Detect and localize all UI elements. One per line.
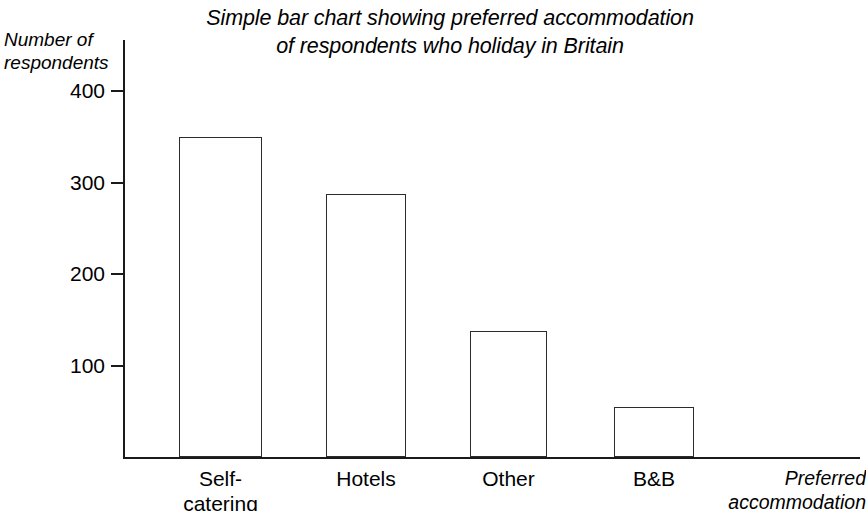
bar xyxy=(470,331,547,457)
y-tick-mark xyxy=(111,90,124,92)
category-label: Other xyxy=(429,466,589,491)
y-tick-label: 300 xyxy=(35,172,105,193)
y-axis-line xyxy=(123,40,125,459)
y-tick-mark xyxy=(111,182,124,184)
bar xyxy=(326,194,406,457)
x-axis-line xyxy=(123,457,860,459)
y-tick-label: 100 xyxy=(35,355,105,376)
y-tick-label: 200 xyxy=(35,263,105,284)
y-axis-label: Number of respondents xyxy=(4,28,118,74)
y-tick-label: 400 xyxy=(35,80,105,101)
x-axis-label: Preferred accommodation xyxy=(706,466,866,511)
chart-title: Simple bar chart showing preferred accom… xyxy=(150,4,750,60)
category-label: Self- catering xyxy=(141,466,301,511)
bar-chart-figure: Simple bar chart showing preferred accom… xyxy=(0,0,866,511)
bar xyxy=(614,407,694,457)
bar xyxy=(179,137,262,457)
category-label: Hotels xyxy=(286,466,446,491)
y-tick-mark xyxy=(111,365,124,367)
y-tick-mark xyxy=(111,273,124,275)
